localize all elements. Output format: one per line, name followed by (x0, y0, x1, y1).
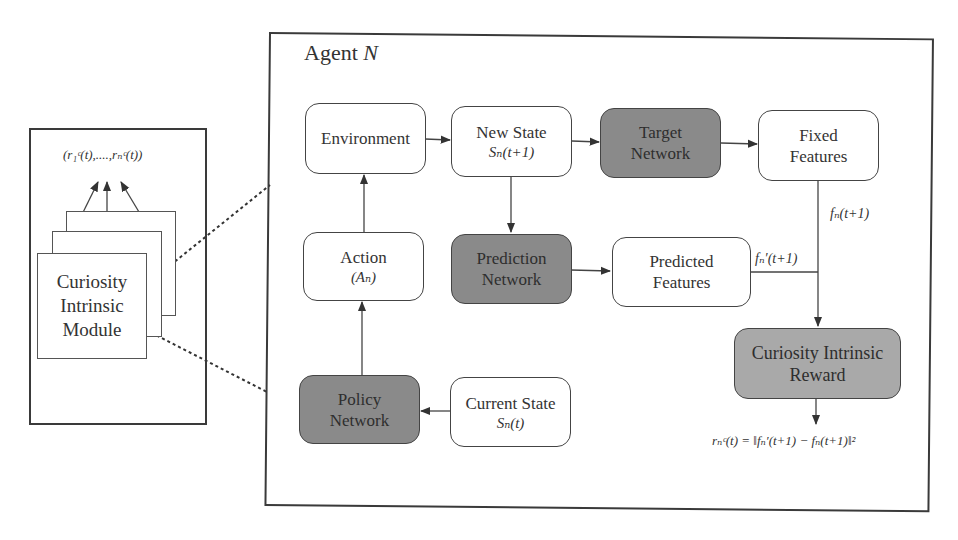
prediction-network-node[interactable]: Prediction Network (451, 234, 572, 304)
action-symbol: (Aₙ) (351, 268, 376, 286)
predicted-features-output-label: fₙ′(t+1) (755, 250, 797, 267)
agent-title-prefix: Agent (304, 40, 363, 65)
curiosity-intrinsic-module[interactable]: Curiosity Intrinsic Module (37, 253, 147, 359)
environment-node[interactable]: Environment (305, 103, 426, 174)
target-network-line-1: Target (639, 122, 682, 143)
target-network-line-2: Network (631, 143, 690, 164)
intrinsic-rewards-vector-label: (r₁ᶜ(t),....,rₙᶜ(t)) (63, 147, 142, 163)
fixed-features-node[interactable]: Fixed Features (758, 110, 879, 181)
current-state-node[interactable]: Current State Sₙ(t) (450, 377, 571, 447)
fixed-features-line-1: Fixed (799, 125, 838, 146)
policy-network-node[interactable]: Policy Network (299, 375, 420, 444)
predicted-features-node[interactable]: Predicted Features (612, 237, 751, 307)
agent-title: Agent N (304, 40, 378, 66)
policy-network-line-1: Policy (338, 389, 381, 410)
action-node[interactable]: Action (Aₙ) (303, 232, 424, 301)
curiosity-intrinsic-reward-node[interactable]: Curiosity Intrinsic Reward (734, 328, 901, 399)
predicted-features-line-1: Predicted (649, 251, 713, 272)
policy-network-line-2: Network (330, 410, 389, 431)
environment-label: Environment (321, 128, 410, 149)
prediction-network-line-1: Prediction (477, 248, 547, 269)
new-state-label: New State (476, 122, 546, 143)
new-state-symbol: Sₙ(t+1) (489, 143, 534, 161)
module-label-line-3: Module (62, 318, 121, 342)
new-state-node[interactable]: New State Sₙ(t+1) (451, 106, 572, 177)
target-network-node[interactable]: Target Network (600, 108, 721, 178)
current-state-label: Current State (465, 393, 555, 414)
fixed-features-output-label: fₙ(t+1) (830, 205, 869, 222)
action-label: Action (340, 247, 386, 268)
module-label-line-2: Intrinsic (60, 294, 123, 318)
current-state-symbol: Sₙ(t) (497, 414, 525, 432)
reward-line-1: Curiosity Intrinsic (752, 342, 884, 364)
agent-title-var: N (363, 40, 378, 65)
module-label-line-1: Curiosity (57, 270, 128, 294)
predicted-features-line-2: Features (653, 272, 711, 293)
prediction-network-line-2: Network (482, 269, 541, 290)
reward-line-2: Reward (790, 364, 846, 386)
fixed-features-line-2: Features (790, 146, 848, 167)
reward-formula: rₙᶜ(t) = ‖fₙ′(t+1) − fₙ(t+1)‖² (712, 433, 855, 449)
